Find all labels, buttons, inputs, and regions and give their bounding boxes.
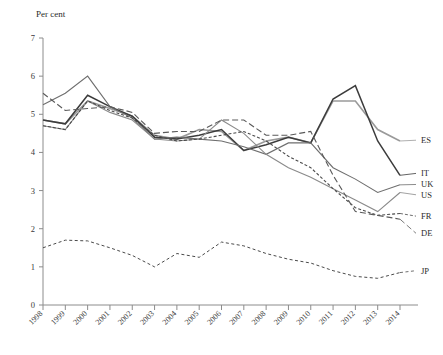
x-tick-label: 2013	[361, 309, 379, 327]
series-line-it	[43, 86, 400, 176]
y-tick-label: 2	[31, 224, 35, 234]
series-label-us: US	[421, 190, 432, 200]
leader-line-fr	[400, 213, 416, 216]
series-label-it: IT	[421, 168, 430, 178]
series-label-uk: UK	[421, 179, 434, 189]
x-tick-label: 2012	[339, 309, 357, 327]
x-tick-label: 1998	[27, 309, 45, 327]
y-tick-label: 3	[31, 186, 35, 196]
x-tick-label: 2004	[161, 309, 179, 327]
leader-line-es	[400, 140, 416, 141]
leader-line-it	[400, 173, 416, 175]
series-label-es: ES	[421, 135, 431, 145]
x-tick-label: 2006	[205, 309, 223, 327]
series-label-de: DE	[421, 228, 432, 238]
y-axis-title: Per cent	[36, 9, 66, 19]
leader-line-jp	[400, 271, 416, 273]
x-axis: 1998199920002001200220032004200520062007…	[27, 305, 418, 327]
series-lines	[43, 76, 400, 278]
y-tick-label: 4	[31, 147, 36, 157]
x-tick-label: 2010	[294, 309, 312, 327]
x-tick-label: 2002	[116, 309, 134, 327]
y-axis: 01234567	[31, 33, 43, 310]
line-chart: Per cent 01234567 1998199920002001200220…	[0, 0, 443, 355]
series-label-jp: JP	[421, 266, 429, 276]
y-tick-label: 0	[31, 300, 35, 310]
x-tick-label: 2003	[138, 309, 156, 327]
leader-line-de	[400, 219, 416, 233]
x-tick-label: 1999	[49, 309, 67, 327]
series-line-fr	[43, 101, 400, 215]
series-line-uk	[43, 76, 400, 192]
chart-figure: Per cent 01234567 1998199920002001200220…	[0, 0, 443, 355]
series-line-us	[43, 101, 400, 212]
y-tick-label: 5	[31, 109, 35, 119]
x-tick-label: 2009	[272, 309, 290, 327]
x-tick-label: 2014	[384, 309, 402, 327]
x-tick-label: 2007	[228, 309, 246, 327]
x-tick-label: 2005	[183, 309, 201, 327]
x-tick-label: 2000	[71, 309, 89, 327]
y-tick-label: 6	[31, 71, 35, 81]
series-line-es	[43, 101, 400, 151]
series-labels: ESITUKUSFRDEJP	[400, 135, 434, 275]
leader-line-us	[400, 192, 416, 194]
y-tick-label: 1	[31, 262, 35, 272]
y-tick-label: 7	[31, 33, 35, 43]
x-tick-label: 2001	[94, 309, 112, 327]
x-tick-label: 2011	[317, 309, 334, 326]
series-label-fr: FR	[421, 211, 432, 221]
x-tick-label: 2008	[250, 309, 268, 327]
y-axis-title-group: Per cent	[36, 9, 66, 19]
series-line-jp	[43, 240, 400, 278]
